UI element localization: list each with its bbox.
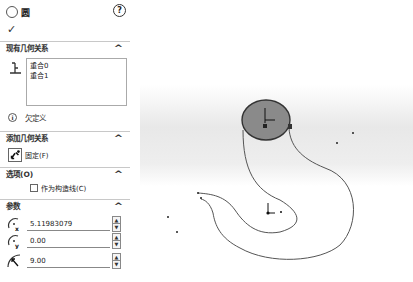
relation-icon	[8, 60, 22, 74]
graphics-canvas[interactable]	[140, 0, 413, 282]
sketch-point[interactable]	[280, 211, 282, 213]
section-header[interactable]: 现有几何关系 ^	[0, 42, 130, 56]
sketch-point[interactable]	[167, 216, 169, 218]
tangent-handle[interactable]	[288, 124, 292, 129]
radius-icon	[6, 253, 22, 269]
center-y-input[interactable]: 0.00	[27, 234, 110, 248]
parameters-section: 参数 ^ x 5.11983079 ▲ ▼ y 0.00 ▲	[0, 199, 130, 279]
spin-down-icon[interactable]: ▼	[113, 224, 120, 231]
spin-up-icon[interactable]: ▲	[113, 254, 120, 261]
circle-icon	[6, 6, 18, 18]
radius-param: 9.00 ▲ ▼	[6, 253, 124, 270]
center-y-param: y 0.00 ▲ ▼	[6, 233, 124, 250]
section-title: 参数	[6, 202, 20, 211]
center-point[interactable]	[263, 124, 267, 128]
center-x-icon: x	[6, 216, 22, 232]
panel-title: 圆	[21, 6, 30, 19]
property-manager-panel: 圆 ? ✓ 现有几何关系 ^ 重合0 重合1 i 欠定义 添加几何关系 ^	[0, 0, 132, 282]
sketch-point[interactable]	[197, 192, 199, 194]
section-header[interactable]: 选项(O) ^	[0, 168, 130, 182]
section-title: 选项(O)	[6, 170, 33, 179]
chevron-up-icon[interactable]: ^	[114, 132, 123, 146]
center-x-spinner[interactable]: ▲ ▼	[112, 216, 121, 232]
anchor-fix-icon	[8, 148, 22, 162]
center-y-icon: y	[6, 233, 22, 249]
relations-list[interactable]: 重合0 重合1	[26, 58, 127, 106]
origin-point[interactable]	[266, 211, 269, 214]
radius-input[interactable]: 9.00	[27, 254, 110, 268]
options-section: 选项(O) ^ 作为构造线(C)	[0, 167, 130, 197]
construction-label: 作为构造线(C)	[41, 183, 86, 193]
spin-down-icon[interactable]: ▼	[113, 261, 120, 268]
spin-up-icon[interactable]: ▲	[113, 234, 120, 241]
spin-down-icon[interactable]: ▼	[113, 241, 120, 248]
chevron-up-icon[interactable]: ^	[114, 168, 123, 182]
help-icon[interactable]: ?	[113, 4, 126, 17]
canvas-background	[140, 0, 413, 282]
ok-check-icon[interactable]: ✓	[7, 23, 16, 36]
section-title: 现有几何关系	[6, 44, 48, 53]
radius-spinner[interactable]: ▲ ▼	[112, 253, 121, 269]
svg-text:x: x	[15, 225, 19, 232]
section-header[interactable]: 添加几何关系 ^	[0, 132, 130, 146]
definition-status: i 欠定义	[8, 112, 46, 123]
existing-relations-section: 现有几何关系 ^ 重合0 重合1	[0, 41, 130, 109]
svg-text:y: y	[15, 242, 19, 249]
list-item[interactable]: 重合0	[30, 61, 123, 71]
fix-relation-button[interactable]: 固定(F)	[8, 148, 49, 162]
panel-header: 圆 ?	[6, 4, 130, 20]
center-y-spinner[interactable]: ▲ ▼	[112, 233, 121, 249]
sketch-point[interactable]	[176, 231, 178, 233]
list-item[interactable]: 重合1	[30, 71, 123, 81]
center-x-param: x 5.11983079 ▲ ▼	[6, 216, 124, 233]
fix-label: 固定(F)	[25, 150, 49, 160]
section-title: 添加几何关系	[6, 134, 48, 143]
sketch-point[interactable]	[200, 197, 202, 199]
add-relations-section: 添加几何关系 ^ 固定(F)	[0, 131, 130, 165]
spin-up-icon[interactable]: ▲	[113, 217, 120, 224]
construction-option[interactable]: 作为构造线(C)	[30, 183, 86, 193]
sketch-point[interactable]	[352, 132, 354, 134]
construction-checkbox[interactable]	[30, 184, 38, 192]
status-text: 欠定义	[25, 112, 46, 123]
chevron-up-icon[interactable]: ^	[114, 200, 123, 214]
chevron-up-icon[interactable]: ^	[114, 42, 123, 56]
sketch-point[interactable]	[336, 142, 338, 144]
info-icon: i	[8, 113, 17, 122]
section-header[interactable]: 参数 ^	[0, 200, 130, 214]
center-x-input[interactable]: 5.11983079	[27, 217, 110, 231]
